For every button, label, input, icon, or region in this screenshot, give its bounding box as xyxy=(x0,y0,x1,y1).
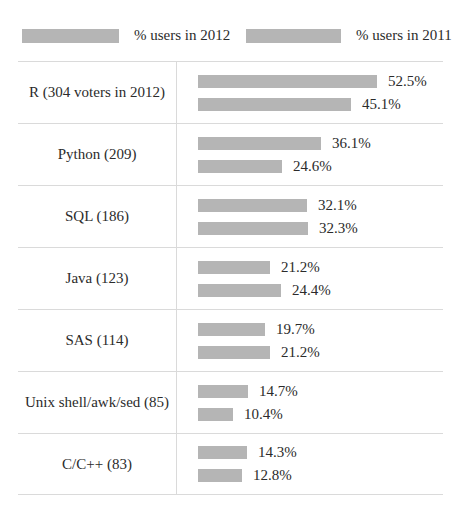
category-label: SQL (186) xyxy=(18,186,176,247)
bar-2012 xyxy=(198,261,270,274)
value-label-2012: 19.7% xyxy=(276,323,315,336)
value-label-2012: 14.3% xyxy=(258,446,297,459)
value-label-2012: 32.1% xyxy=(318,199,357,212)
poll-chart: % users in 2012 % users in 2011 R (304 v… xyxy=(0,0,461,523)
bar-line-2011: 45.1% xyxy=(198,98,443,111)
value-label-2011: 21.2% xyxy=(281,346,320,359)
bar-line-2012: 36.1% xyxy=(198,137,443,150)
bar-line-2012: 19.7% xyxy=(198,323,443,336)
value-label-2011: 10.4% xyxy=(244,408,283,421)
bar-2011 xyxy=(198,222,308,235)
bars-cell: 52.5% 45.1% xyxy=(176,62,443,123)
table-row-unix: Unix shell/awk/sed (85) 14.7% 10.4% xyxy=(18,371,443,433)
bar-line-2012: 14.7% xyxy=(198,385,443,398)
bar-line-2011: 12.8% xyxy=(198,469,443,482)
bar-2012 xyxy=(198,199,307,212)
bars-cell: 14.7% 10.4% xyxy=(176,372,443,433)
bar-2012 xyxy=(198,323,265,336)
bars-cell: 32.1% 32.3% xyxy=(176,186,443,247)
bar-line-2011: 24.4% xyxy=(198,284,443,297)
legend-swatch-2012 xyxy=(22,29,119,43)
value-label-2012: 14.7% xyxy=(259,385,298,398)
bar-line-2012: 52.5% xyxy=(198,75,443,88)
bar-line-2012: 21.2% xyxy=(198,261,443,274)
table-row-sas: SAS (114) 19.7% 21.2% xyxy=(18,309,443,371)
bars-cell: 14.3% 12.8% xyxy=(176,434,443,494)
bar-line-2012: 14.3% xyxy=(198,446,443,459)
category-label: Java (123) xyxy=(18,248,176,309)
category-label: Unix shell/awk/sed (85) xyxy=(18,372,176,433)
chart-legend: % users in 2012 % users in 2011 xyxy=(0,0,461,43)
value-label-2011: 32.3% xyxy=(319,222,358,235)
bar-2011 xyxy=(198,284,281,297)
bar-2012 xyxy=(198,446,247,459)
bar-line-2012: 32.1% xyxy=(198,199,443,212)
bar-2012 xyxy=(198,75,377,88)
bar-2011 xyxy=(198,160,282,173)
legend-label-2012: % users in 2012 xyxy=(134,28,232,43)
table-row-java: Java (123) 21.2% 24.4% xyxy=(18,247,443,309)
bar-line-2011: 21.2% xyxy=(198,346,443,359)
value-label-2011: 24.4% xyxy=(292,284,331,297)
bar-2012 xyxy=(198,137,321,150)
bar-2012 xyxy=(198,385,248,398)
bar-line-2011: 10.4% xyxy=(198,408,443,421)
category-label: C/C++ (83) xyxy=(18,434,176,494)
table-row-python: Python (209) 36.1% 24.6% xyxy=(18,123,443,185)
legend-label-2011: % users in 2011 xyxy=(356,28,452,43)
value-label-2012: 52.5% xyxy=(388,75,427,88)
value-label-2011: 45.1% xyxy=(362,98,401,111)
bar-2011 xyxy=(198,346,270,359)
value-label-2012: 36.1% xyxy=(332,137,371,150)
bars-cell: 19.7% 21.2% xyxy=(176,310,443,371)
table-row-r: R (304 voters in 2012) 52.5% 45.1% xyxy=(18,61,443,123)
bars-cell: 36.1% 24.6% xyxy=(176,124,443,185)
category-label: Python (209) xyxy=(18,124,176,185)
chart-rows: R (304 voters in 2012) 52.5% 45.1% Pytho… xyxy=(18,61,443,495)
bar-line-2011: 24.6% xyxy=(198,160,443,173)
value-label-2012: 21.2% xyxy=(281,261,320,274)
bar-2011 xyxy=(198,408,233,421)
legend-swatch-2011 xyxy=(246,29,341,43)
value-label-2011: 12.8% xyxy=(253,469,292,482)
table-row-cpp: C/C++ (83) 14.3% 12.8% xyxy=(18,433,443,495)
category-label: R (304 voters in 2012) xyxy=(18,62,176,123)
table-row-sql: SQL (186) 32.1% 32.3% xyxy=(18,185,443,247)
bars-cell: 21.2% 24.4% xyxy=(176,248,443,309)
bar-2011 xyxy=(198,98,351,111)
category-label: SAS (114) xyxy=(18,310,176,371)
bar-line-2011: 32.3% xyxy=(198,222,443,235)
value-label-2011: 24.6% xyxy=(293,160,332,173)
bar-2011 xyxy=(198,469,242,482)
